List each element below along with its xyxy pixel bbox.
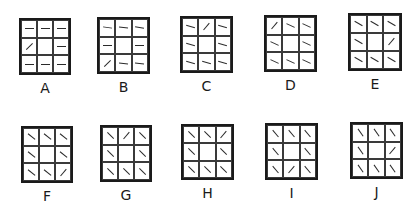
line-segment-icon (373, 129, 379, 137)
line-segment-icon (304, 148, 311, 156)
grid-cell (300, 143, 316, 161)
grid-panel-a (19, 18, 71, 75)
grid-cell (267, 160, 283, 178)
line-segment-icon (104, 60, 111, 67)
panel-label: B (114, 79, 134, 95)
grid-cell (383, 33, 400, 51)
line-segment-icon (138, 150, 145, 157)
grid-cell (134, 145, 150, 163)
line-segment-icon (41, 28, 50, 29)
line-segment-icon (59, 151, 67, 157)
line-segment-icon (122, 168, 129, 175)
grid-panel-j (350, 122, 403, 179)
grid-cell (39, 146, 55, 164)
grid-cell (199, 161, 215, 178)
grid-cell (216, 126, 232, 143)
grid-cell (350, 51, 367, 69)
grid-cell (115, 37, 131, 55)
grid-cell (267, 143, 283, 161)
line-segment-icon (373, 164, 379, 172)
line-segment-icon (43, 134, 51, 140)
grid-cell (118, 145, 134, 163)
grid-cell (182, 36, 198, 54)
line-segment-icon (57, 28, 66, 29)
grid-cell (198, 36, 214, 54)
line-segment-icon (27, 169, 35, 175)
grid-cell (183, 161, 199, 178)
line-segment-icon (106, 168, 113, 175)
grid-cell (282, 17, 298, 35)
line-segment-icon (271, 22, 278, 30)
grid-cell (383, 15, 400, 33)
line-segment-icon (204, 166, 211, 173)
panel-label: J (367, 184, 387, 200)
line-segment-icon (387, 57, 395, 63)
grid-cell (37, 55, 53, 73)
grid-cell (215, 18, 231, 36)
line-segment-icon (388, 38, 395, 46)
panel-label: F (37, 188, 57, 204)
line-segment-icon (138, 168, 145, 175)
line-segment-icon (188, 166, 195, 173)
panel-label: E (365, 76, 385, 92)
grid-cell (352, 124, 368, 142)
grid-cell (21, 55, 37, 73)
line-segment-icon (57, 46, 66, 47)
grid-cell (53, 55, 69, 73)
grid-panel-b (97, 17, 150, 74)
grid-cell (299, 35, 315, 53)
grid-cell (300, 160, 316, 178)
line-segment-icon (272, 130, 279, 138)
line-segment-icon (27, 151, 35, 157)
line-segment-icon (103, 45, 112, 46)
grid-cell (215, 36, 231, 54)
grid-cell (299, 52, 315, 70)
grid-cell (367, 51, 384, 69)
line-segment-icon (286, 23, 295, 28)
grid-cell (383, 51, 400, 69)
line-segment-icon (204, 131, 211, 138)
grid-cell (367, 15, 384, 33)
grid-cell (21, 20, 37, 38)
grid-panel-f (21, 126, 73, 183)
line-segment-icon (389, 147, 396, 155)
line-segment-icon (135, 45, 144, 46)
line-segment-icon (103, 27, 112, 29)
grid-cell (55, 146, 71, 164)
grid-cell (37, 20, 53, 38)
line-segment-icon (186, 25, 195, 28)
line-segment-icon (123, 132, 130, 140)
line-segment-icon (135, 26, 144, 29)
panel-label: G (116, 187, 136, 203)
line-segment-icon (270, 41, 279, 46)
line-segment-icon (25, 64, 34, 65)
grid-panel-d (264, 15, 317, 72)
grid-cell (266, 52, 282, 70)
grid-cell (55, 163, 71, 181)
grid-panel-i (265, 123, 318, 180)
line-segment-icon (220, 166, 227, 173)
grid-cell (300, 125, 316, 143)
grid-cell (385, 159, 401, 177)
grid-cell (132, 37, 148, 55)
line-segment-icon (188, 131, 195, 138)
grid-cell (23, 146, 39, 164)
grid-panel-c (180, 16, 233, 73)
line-segment-icon (203, 23, 210, 31)
grid-cell (350, 33, 367, 51)
grid-cell (199, 143, 215, 160)
line-segment-icon (357, 146, 363, 154)
line-segment-icon (304, 165, 311, 173)
grid-cell (99, 37, 115, 55)
grid-cell (132, 54, 148, 72)
line-segment-icon (218, 60, 227, 63)
grid-cell (183, 143, 199, 160)
grid-cell (350, 15, 367, 33)
line-segment-icon (119, 62, 128, 64)
panel-label: I (282, 185, 302, 201)
line-segment-icon (106, 150, 113, 157)
line-segment-icon (288, 130, 295, 138)
line-segment-icon (302, 23, 311, 28)
grid-cell (266, 35, 282, 53)
grid-cell (134, 162, 150, 180)
